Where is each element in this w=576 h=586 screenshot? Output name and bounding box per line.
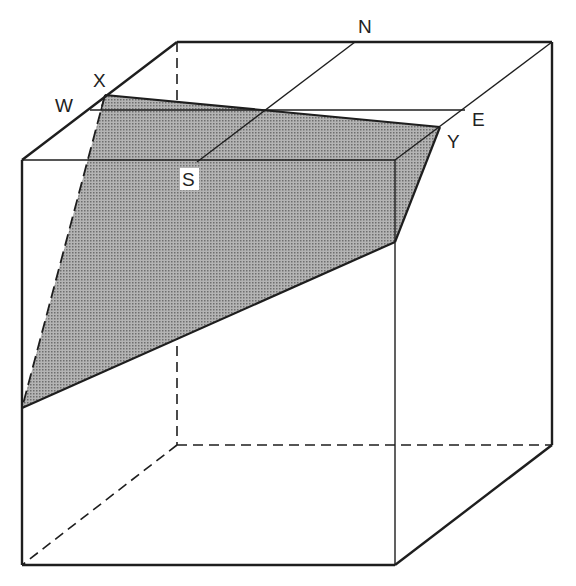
label-y: Y — [447, 131, 460, 152]
label-north: N — [358, 16, 372, 37]
label-west: W — [55, 95, 73, 116]
label-south: S — [182, 169, 195, 190]
block-diagram: N E W S X Y — [0, 0, 576, 586]
hidden-edge-bottom-left-depth — [22, 445, 177, 565]
edge-bottom-right-depth — [395, 445, 552, 565]
label-east: E — [472, 109, 485, 130]
label-x: X — [93, 70, 106, 91]
edge-top-right-depth — [395, 42, 552, 160]
dipping-plane — [22, 95, 440, 408]
